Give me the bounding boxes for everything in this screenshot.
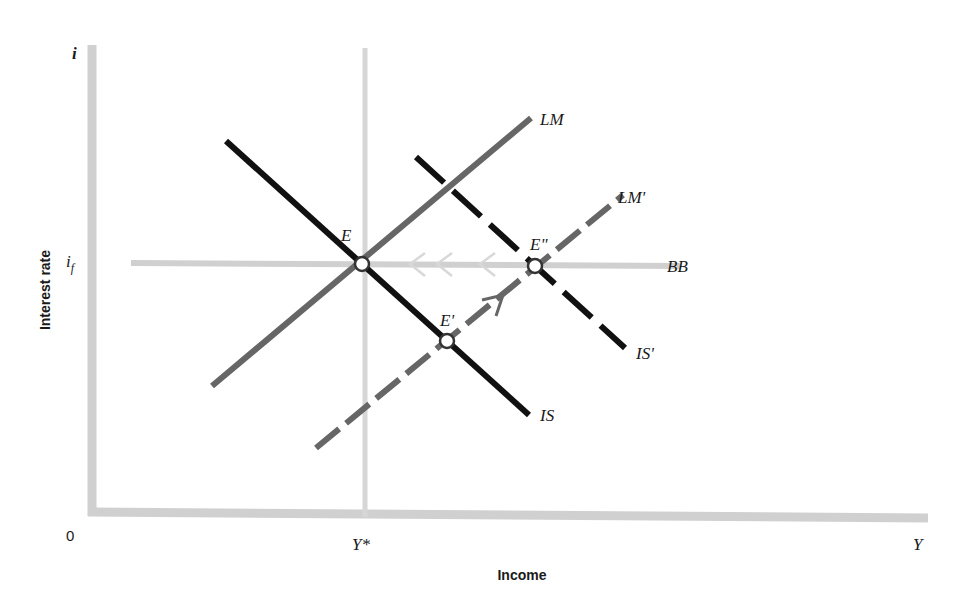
point-e-double-prime [528, 259, 542, 273]
if-tick-label: if [66, 252, 76, 275]
ystar-tick-label: Y* [352, 535, 370, 554]
point-e-label: E [340, 226, 352, 245]
point-e-prime [440, 334, 454, 348]
x-axis-end-label: Y [913, 535, 924, 554]
is-label: IS [539, 406, 555, 425]
x-axis-title: Income [497, 567, 546, 583]
point-e-prime-label: E' [439, 311, 454, 330]
lm-label: LM [539, 110, 564, 129]
bb-label: BB [667, 257, 688, 276]
point-e [355, 257, 369, 271]
lm-prime-curve [316, 195, 623, 448]
lm-curve [212, 118, 531, 386]
x-axis [88, 512, 928, 518]
y-axis-title: Interest rate [37, 250, 53, 330]
is-curve [226, 141, 529, 415]
is-prime-label: IS' [635, 344, 654, 363]
origin-label: 0 [66, 527, 74, 544]
lm-prime-label: LM' [617, 188, 646, 207]
point-e-double-prime-label: E" [529, 235, 548, 254]
y-axis-end-label: i [72, 44, 77, 63]
bb-curve [131, 263, 680, 266]
is-lm-bb-diagram: i if Interest rate 0 Y* Y Income LM LM' … [0, 0, 964, 593]
